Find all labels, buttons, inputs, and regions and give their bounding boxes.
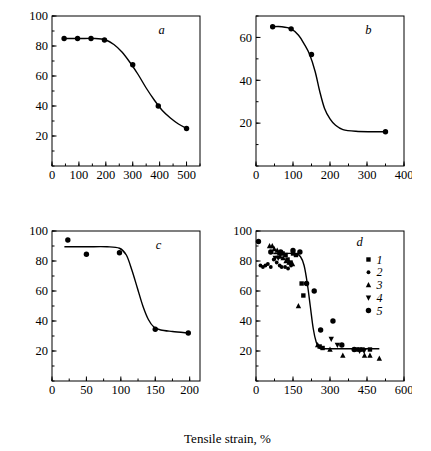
x-tick-label: 100 xyxy=(70,168,89,182)
legend-entry-5: 5 xyxy=(366,304,383,318)
y-tick-label: 40 xyxy=(36,99,49,113)
y-tick-label: 100 xyxy=(29,224,48,238)
y-tick-label: 40 xyxy=(240,74,253,88)
y-tick-label: 60 xyxy=(240,284,253,298)
x-axis-label-text: Tensile strain, % xyxy=(184,431,271,446)
x-tick-label: 150 xyxy=(284,383,303,397)
x-tick-label: 500 xyxy=(177,168,196,182)
data-series-c-data xyxy=(65,237,191,335)
y-tick-label: 60 xyxy=(36,69,49,83)
fitted-curve xyxy=(272,27,386,132)
fitted-curve xyxy=(64,247,188,333)
x-tick-label: 400 xyxy=(150,168,169,182)
x-tick-label: 0 xyxy=(253,168,259,182)
x-tick-label: 0 xyxy=(253,383,259,397)
x-tick-label: 400 xyxy=(395,168,412,182)
x-tick-label: 300 xyxy=(123,168,142,182)
data-series-5 xyxy=(256,239,357,352)
x-tick-label: 150 xyxy=(146,383,165,397)
y-tick-label: 80 xyxy=(240,254,253,268)
panel-letter-c: c xyxy=(156,238,162,252)
x-axis-label: Tensile strain, % xyxy=(0,431,431,447)
y-axis-label: Reversible strain (shrinkage), % xyxy=(0,0,20,22)
x-tick-label: 200 xyxy=(321,168,340,182)
x-tick-label: 450 xyxy=(358,383,377,397)
x-tick-label: 200 xyxy=(96,168,115,182)
fitted-curve xyxy=(63,38,187,128)
chart-panel-d: 015030045060020406080100d12345 xyxy=(222,221,412,409)
y-tick-label: 80 xyxy=(36,39,49,53)
x-tick-label: 100 xyxy=(284,168,303,182)
figure-panel-grid: Reversible strain (shrinkage), % 0100200… xyxy=(0,0,431,451)
y-tick-label: 20 xyxy=(240,116,253,130)
y-tick-label: 20 xyxy=(240,344,253,358)
data-series-3 xyxy=(267,243,382,361)
x-tick-label: 50 xyxy=(80,383,93,397)
y-tick-label: 40 xyxy=(36,314,49,328)
x-tick-label: 300 xyxy=(358,168,377,182)
panel-letter-a: a xyxy=(158,23,164,37)
y-tick-label: 100 xyxy=(29,9,48,23)
y-tick-label: 20 xyxy=(36,129,49,143)
x-tick-label: 300 xyxy=(321,383,340,397)
y-tick-label: 60 xyxy=(36,284,49,298)
x-tick-label: 0 xyxy=(49,168,55,182)
chart-panel-a: 010020030040050020406080100a xyxy=(18,6,208,194)
y-tick-label: 40 xyxy=(240,314,253,328)
x-tick-label: 100 xyxy=(111,383,130,397)
x-tick-label: 200 xyxy=(180,383,199,397)
x-tick-label: 0 xyxy=(49,383,55,397)
y-tick-label: 60 xyxy=(240,31,253,45)
y-tick-label: 100 xyxy=(233,224,252,238)
x-tick-label: 600 xyxy=(395,383,412,397)
panel-letter-d: d xyxy=(356,235,363,249)
chart-panel-b: 0100200300400204060b xyxy=(222,6,412,194)
panel-letter-b: b xyxy=(365,23,371,37)
chart-panel-c: 05010015020020406080100c xyxy=(18,221,208,409)
y-tick-label: 20 xyxy=(36,344,49,358)
legend-label: 5 xyxy=(376,304,382,318)
y-tick-label: 80 xyxy=(36,254,49,268)
data-series-4 xyxy=(273,256,367,354)
